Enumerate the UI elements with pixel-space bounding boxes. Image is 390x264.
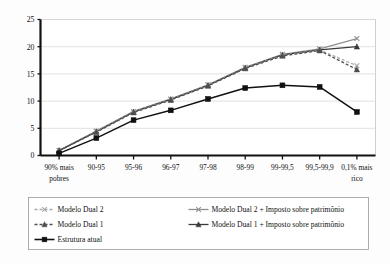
x-tick-label: 99,5-99,9 <box>305 163 334 172</box>
legend-label: Estrutura atual <box>58 235 103 244</box>
line-chart: 0510152025 90% maispobres90-9595-9696-97… <box>0 0 390 264</box>
x-tick-label: 90-95 <box>88 163 106 172</box>
x-tick-label: 95-96 <box>125 163 143 172</box>
x-tick-label: 0,1% mais <box>341 163 372 172</box>
legend-label: Modelo Dual 2 + Imposto sobre patrimônio <box>212 205 345 214</box>
x-tick-label-line2: rico <box>351 174 363 183</box>
legend-label: Modelo Dual 2 <box>58 205 104 214</box>
x-tick-label: 90% mais <box>44 163 73 172</box>
x-tick-label: 96-97 <box>162 163 180 172</box>
legend-item[interactable]: Modelo Dual 1 + Imposto sobre patrimônio <box>189 220 345 229</box>
x-tick-label: 98-99 <box>237 163 255 172</box>
chart-figure: 0510152025 90% maispobres90-9595-9696-97… <box>0 0 390 264</box>
y-tick-label: 15 <box>27 70 35 79</box>
y-tick-label: 25 <box>27 15 35 24</box>
legend-label: Modelo Dual 1 <box>58 220 104 229</box>
x-tick-label: 99-99,5 <box>271 163 294 172</box>
x-axis-ticks: 90% maispobres90-9595-9696-9797-9898-999… <box>44 156 372 183</box>
y-tick-label: 10 <box>27 97 35 106</box>
y-axis-ticks: 0510152025 <box>27 15 41 160</box>
y-tick-label: 5 <box>31 124 35 133</box>
legend-label: Modelo Dual 1 + Imposto sobre patrimônio <box>212 220 345 229</box>
y-tick-label: 0 <box>31 151 35 160</box>
x-tick-label-line2: pobres <box>49 174 69 183</box>
x-tick-label: 97-98 <box>199 163 217 172</box>
chart-legend: Modelo Dual 2Modelo Dual 1Estrutura atua… <box>29 198 369 250</box>
y-tick-label: 20 <box>27 43 35 52</box>
legend-item[interactable]: Modelo Dual 2 + Imposto sobre patrimônio <box>189 205 345 214</box>
